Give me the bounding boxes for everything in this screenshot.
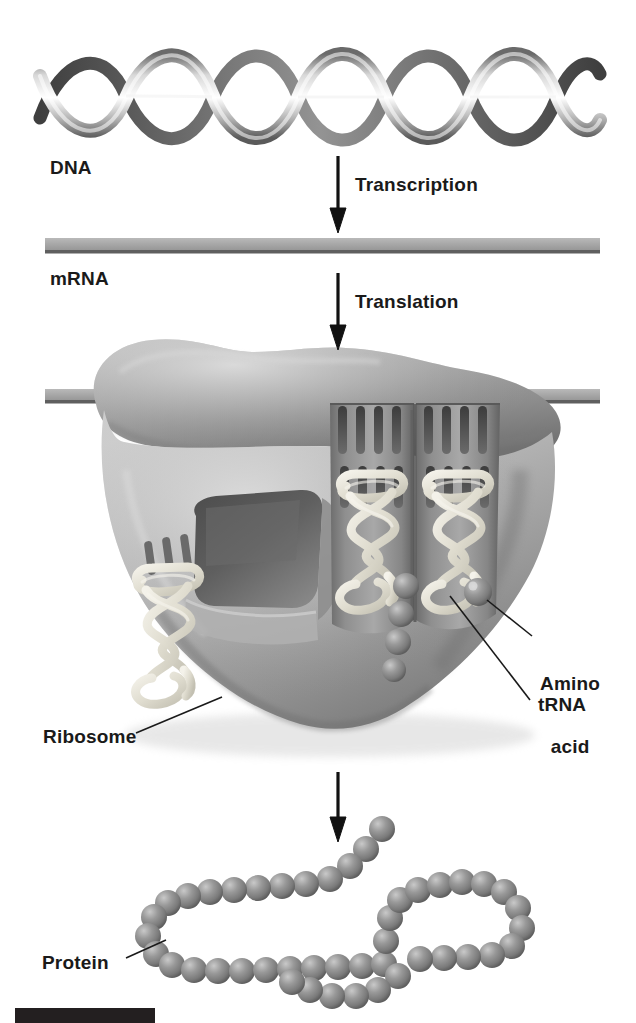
protein-bead-chain [135, 816, 535, 1009]
transcription-label: Transcription [355, 174, 478, 195]
trna-label: tRNA [538, 694, 586, 715]
protein-label: Protein [42, 952, 109, 973]
dna-double-helix [40, 54, 600, 140]
transcription-arrow [330, 156, 346, 233]
diagram-artwork [0, 0, 636, 1023]
amino-acid-label-line1: Amino [540, 673, 600, 694]
ribosome-complex [45, 339, 600, 757]
dna-ribbon-highlights [126, 96, 556, 97]
translation-label: Translation [355, 291, 459, 312]
translation-arrow [330, 273, 346, 350]
amino-acid-bead [464, 578, 492, 606]
ribosome-label: Ribosome [43, 726, 136, 747]
dna-label: DNA [50, 157, 92, 178]
mrna-label: mRNA [50, 268, 109, 289]
protein-synthesis-diagram: DNA mRNA Transcription Translation Amino… [0, 0, 636, 1023]
amino-acid-label-line2: acid [540, 736, 600, 757]
protein-arrow [330, 772, 346, 842]
mrna-strand [45, 238, 600, 254]
bottom-black-bar [15, 1008, 155, 1023]
